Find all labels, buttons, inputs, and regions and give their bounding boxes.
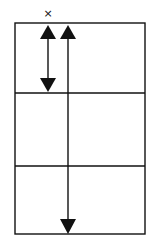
short-double-arrow — [40, 25, 56, 92]
arrow-up-icon — [60, 25, 76, 39]
arrow-down-icon — [60, 219, 76, 234]
x-marker-label: × — [43, 8, 52, 19]
grid-frame — [15, 23, 145, 234]
arrow-down-icon — [40, 78, 56, 92]
outer-rectangle — [15, 23, 145, 234]
long-double-arrow — [60, 25, 76, 234]
arrow-up-icon — [40, 25, 56, 39]
